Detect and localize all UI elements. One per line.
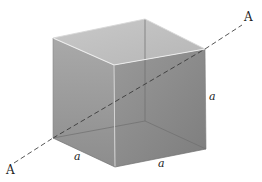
axis-line-lower xyxy=(14,138,53,163)
cube-right-face xyxy=(114,49,206,167)
edge-label-front-bottom: a xyxy=(158,157,165,170)
edge-label-right-vertical: a xyxy=(209,90,216,103)
cube-diagram: A A a a a xyxy=(0,0,262,182)
axis-label-start: A xyxy=(5,163,15,177)
axis-label-end: A xyxy=(243,10,253,24)
axis-line-upper xyxy=(205,25,242,49)
edge-label-left-bottom: a xyxy=(74,150,81,163)
